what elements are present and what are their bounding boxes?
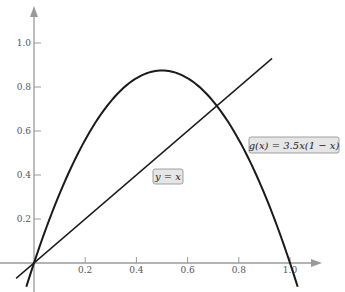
identity-label: y = x (153, 169, 183, 184)
x-tick-label: 0.2 (78, 265, 92, 275)
y-tick-label: 0.8 (17, 82, 32, 92)
function-plot: 0.20.40.60.81.0 0.20.40.60.81.0 g(x) = 3… (0, 0, 345, 292)
identity-label-text: y = x (154, 171, 181, 182)
y-tick-label: 1.0 (17, 38, 32, 48)
x-tick-label: 0.6 (180, 265, 195, 275)
x-tick-label: 0.4 (129, 265, 144, 275)
x-axis-arrow-icon (311, 259, 322, 267)
y-axis-arrow-icon (30, 6, 38, 17)
y-tick-label: 0.2 (17, 214, 31, 224)
x-tick-label: 0.8 (232, 265, 247, 275)
x-ticks: 0.20.40.60.81.0 (78, 257, 297, 275)
y-tick-label: 0.6 (17, 126, 32, 136)
y-ticks: 0.20.40.60.81.0 (17, 38, 41, 224)
g-label-text: g(x) = 3.5x(1 − x) (249, 140, 340, 151)
g-label: g(x) = 3.5x(1 − x) (249, 137, 340, 153)
y-tick-label: 0.4 (17, 170, 32, 180)
identity-line (16, 58, 272, 278)
